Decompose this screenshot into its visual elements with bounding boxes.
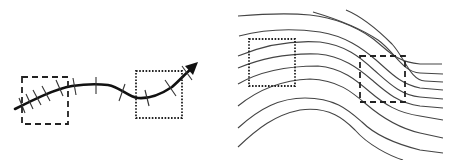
streamlines <box>238 10 443 160</box>
right-panel <box>238 10 443 160</box>
left-panel <box>15 62 198 124</box>
curved-arrow-path <box>15 68 192 109</box>
dotted-box-right <box>249 39 295 86</box>
diagram-canvas <box>0 0 457 160</box>
diagram-svg <box>0 0 457 160</box>
